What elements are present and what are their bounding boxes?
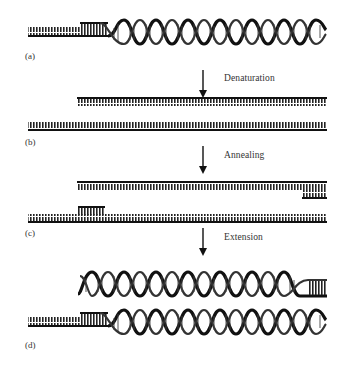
panel-label-d: (d) [25, 340, 36, 350]
primer-right [302, 190, 327, 199]
step-label-annealing: Annealing [224, 150, 264, 160]
panel-c-annealed [28, 181, 327, 223]
step-label-extension: Extension [224, 232, 263, 242]
arrow-down-icon [199, 146, 207, 174]
step-label-denaturation: Denaturation [224, 73, 275, 83]
arrow-down-icon [199, 70, 207, 98]
panel-d-dna-copy-2 [28, 310, 326, 334]
panel-label-b: (b) [25, 137, 36, 147]
panel-label-a: (a) [25, 51, 35, 61]
primer-left [78, 206, 105, 215]
panel-label-c: (c) [25, 228, 35, 238]
panel-a-dna [28, 20, 326, 44]
pcr-diagram [0, 0, 352, 373]
arrow-down-icon [199, 228, 207, 256]
panel-d-dna-copy-1 [78, 272, 327, 296]
panel-b-strands [28, 97, 327, 131]
